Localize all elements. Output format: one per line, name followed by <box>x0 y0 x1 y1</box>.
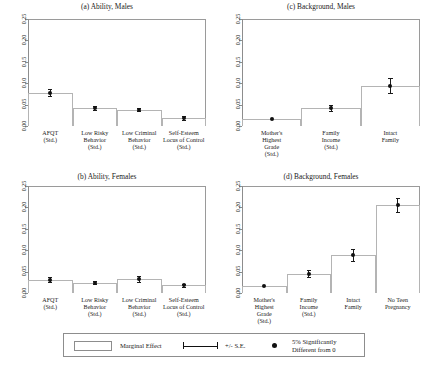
error-bar-cap-bottom-b-0 <box>48 282 52 283</box>
panel-b-ability-females: (b) Ability, Females 0.000.050.100.150.2… <box>0 172 214 337</box>
x-axis-label-line: Locus of Control <box>155 304 214 311</box>
x-axis-label-line: Self-Esteem <box>155 297 214 304</box>
error-bar-cap-top-c-2 <box>388 78 392 79</box>
y-axis-tick-label: 0.15 <box>235 56 241 67</box>
legend-significance-dot <box>272 343 277 348</box>
y-axis-tick-label: 0.25 <box>21 13 27 24</box>
panel-c-title: (c) Background, Males <box>214 2 428 11</box>
legend-se-label: +/- S.E. <box>225 342 245 350</box>
y-axis-spine <box>28 186 29 293</box>
legend-se-bar-cap-left <box>183 342 184 349</box>
error-bar-cap-bottom-b-3 <box>182 287 186 288</box>
y-axis-tick-label: 0.05 <box>235 99 241 110</box>
x-axis-label-line: Locus of Control <box>155 137 214 144</box>
x-axis-label-a-3: Self-EsteemLocus of Control(Std.) <box>155 130 214 151</box>
y-axis-d <box>242 186 243 293</box>
error-bar-cap-bottom-b-2 <box>137 282 141 283</box>
x-axis-label-line: (Std.) <box>235 318 294 325</box>
x-axis-label-line: Pregnancy <box>369 304 428 311</box>
y-axis-tick-label: 0.20 <box>21 35 27 46</box>
legend-marginal-effect-label: Marginal Effect <box>120 342 162 350</box>
y-axis-tick-label: 0.05 <box>21 99 27 110</box>
error-bar-cap-bottom-a-3 <box>182 120 186 121</box>
y-axis-tick-label: 0.20 <box>235 202 241 213</box>
x-axis-label-line: (Std.) <box>235 151 308 158</box>
y-axis-b <box>28 186 29 293</box>
y-axis-tick-label: 0.05 <box>21 266 27 277</box>
error-bar-cap-top-d-3 <box>396 198 400 199</box>
x-axis-label-line: Intact <box>354 130 427 137</box>
x-axis-label-line: Family <box>354 137 427 144</box>
error-bar-cap-bottom-c-1 <box>329 111 333 112</box>
panel-b-title: (b) Ability, Females <box>0 172 214 181</box>
bar-d-3[interactable] <box>376 205 421 293</box>
significance-dot-a-3 <box>182 116 186 120</box>
significance-dot-a-1 <box>93 106 97 110</box>
x-axis-label-line: Self-Esteem <box>155 130 214 137</box>
legend-significance-label-line1: 5% Significantly <box>292 338 337 346</box>
y-axis-tick-label: 0.15 <box>235 223 241 234</box>
x-axis-label-line: No Teen <box>369 297 428 304</box>
y-axis-tick-label: 0.10 <box>21 78 27 89</box>
error-bar-cap-bottom-d-2 <box>351 261 355 262</box>
y-axis-tick-label: 0.10 <box>235 245 241 256</box>
legend-se-bar-line <box>183 346 218 347</box>
y-axis-tick-label: 0.15 <box>21 56 27 67</box>
x-axis-label-c-2: IntactFamily <box>354 130 427 144</box>
panel-c-background-males: (c) Background, Males 0.000.050.100.150.… <box>214 2 428 172</box>
legend-significance-label-line2: Different from 0 <box>292 346 335 354</box>
figure-root: (a) Ability, Males 0.000.050.100.150.200… <box>0 0 428 367</box>
y-axis-tick-label: 0.05 <box>235 266 241 277</box>
plot-area-b <box>28 186 206 293</box>
significance-dot-c-0 <box>270 117 274 121</box>
y-axis-c <box>242 19 243 126</box>
y-axis-tick-label: 0.10 <box>21 245 27 256</box>
x-axis-label-d-3: No TeenPregnancy <box>369 297 428 311</box>
x-axis-label-line: (Std.) <box>280 311 339 318</box>
y-axis-spine <box>242 186 243 293</box>
x-axis-label-line: (Std.) <box>155 311 214 318</box>
error-bar-cap-top-a-0 <box>48 89 52 90</box>
y-axis-tick-label: 0.25 <box>21 180 27 191</box>
significance-dot-a-0 <box>48 91 52 95</box>
legend-se-bar-cap-right <box>217 342 218 349</box>
error-bar-cap-bottom-a-1 <box>93 110 97 111</box>
x-axis-label-b-3: Self-EsteemLocus of Control(Std.) <box>155 297 214 318</box>
panel-d-title: (d) Background, Females <box>214 172 428 181</box>
y-axis-tick-label: 0.10 <box>235 78 241 89</box>
y-axis-tick-label: 0.20 <box>235 35 241 46</box>
error-bar-cap-bottom-d-3 <box>396 212 400 213</box>
error-bar-cap-top-d-2 <box>351 249 355 250</box>
error-bar-cap-bottom-c-2 <box>388 93 392 94</box>
x-axis-label-line: (Std.) <box>155 144 214 151</box>
y-axis-spine <box>242 19 243 126</box>
significance-dot-d-1 <box>307 272 311 276</box>
y-axis-tick-label: 0.25 <box>235 180 241 191</box>
error-bar-cap-bottom-d-1 <box>307 277 311 278</box>
panel-a-ability-males: (a) Ability, Males 0.000.050.100.150.200… <box>0 2 214 172</box>
x-axis-label-line: (Std.) <box>294 144 367 151</box>
significance-dot-b-1 <box>93 281 97 285</box>
error-bar-cap-bottom-a-0 <box>48 96 52 97</box>
y-axis-tick-label: 0.20 <box>21 202 27 213</box>
panel-d-background-females: (d) Background, Females 0.000.050.100.15… <box>214 172 428 337</box>
bar-a-0[interactable] <box>28 93 73 126</box>
y-axis-tick-label: 0.25 <box>235 13 241 24</box>
panel-a-title: (a) Ability, Males <box>0 2 214 11</box>
y-axis-tick-label: 0.15 <box>21 223 27 234</box>
legend: Marginal Effect +/- S.E. 5% Significantl… <box>63 333 365 357</box>
legend-marginal-effect-swatch <box>74 341 112 351</box>
